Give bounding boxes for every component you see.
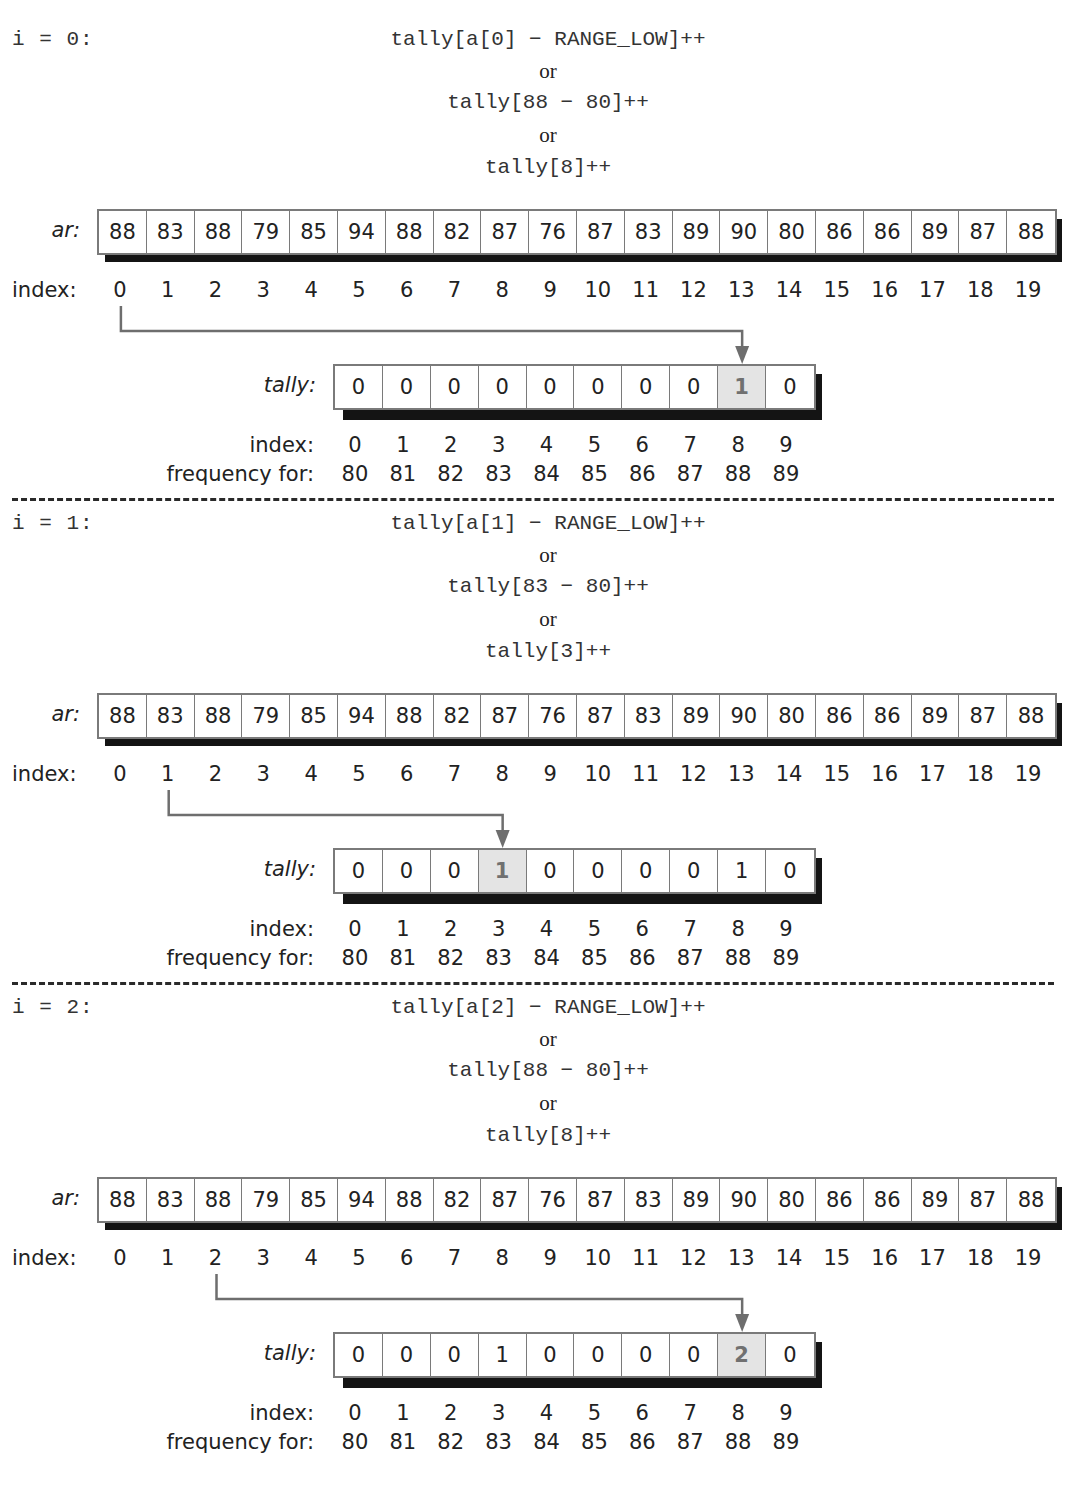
tally-index: 7 [666,433,714,457]
tally-cell: 0 [670,850,718,892]
frequency-value: 85 [570,1430,618,1454]
tally-cell: 0 [622,1334,670,1376]
frequency-value: 88 [714,1430,762,1454]
frequency-value: 84 [523,946,571,970]
frequency-value: 83 [475,462,523,486]
frequency-value: 80 [331,462,379,486]
frequency-value: 82 [427,462,475,486]
tally-cell: 0 [335,1334,383,1376]
frequency-for-label: frequency for: [100,462,314,486]
tally-index: 4 [523,433,571,457]
frequency-value: 82 [427,1430,475,1454]
frequency-value: 87 [666,462,714,486]
tally-index: 9 [762,433,810,457]
tally-cells: 0000000010 [333,364,816,410]
tally-index: 6 [618,917,666,941]
tally-index-row: 0123456789 [331,917,810,941]
tally-index: 0 [331,433,379,457]
frequency-value: 82 [427,946,475,970]
tally-index: 3 [475,1401,523,1425]
frequency-value: 86 [618,946,666,970]
tally-index: 0 [331,1401,379,1425]
tally-cell: 1 [718,850,766,892]
tally-cell: 0 [622,850,670,892]
frequency-value: 81 [379,462,427,486]
tally-cell: 0 [670,366,718,408]
tally-index: 1 [379,1401,427,1425]
frequency-value: 84 [523,462,571,486]
tally-cell: 0 [431,366,479,408]
tally-cell: 0 [335,366,383,408]
tally-index: 6 [618,433,666,457]
tally-index-row: 0123456789 [331,433,810,457]
frequency-value: 84 [523,1430,571,1454]
tally-index: 5 [570,1401,618,1425]
tally-index: 6 [618,1401,666,1425]
frequency-value: 89 [762,1430,810,1454]
tally-index: 7 [666,917,714,941]
frequency-value: 85 [570,946,618,970]
frequency-value: 88 [714,946,762,970]
tally-index: 2 [427,1401,475,1425]
frequency-value: 87 [666,1430,714,1454]
frequency-value: 86 [618,462,666,486]
frequency-for-row: 80818283848586878889 [331,462,810,486]
tally-label: tally: [200,373,316,397]
tally-cell: 0 [622,366,670,408]
tally-cell: 0 [431,850,479,892]
tally-index: 2 [427,433,475,457]
tally-cells: 0001000010 [333,848,816,894]
tally-cell: 0 [383,1334,431,1376]
frequency-value: 87 [666,946,714,970]
tally-cells: 0001000020 [333,1332,816,1378]
frequency-value: 89 [762,462,810,486]
tally-index: 3 [475,917,523,941]
frequency-value: 80 [331,946,379,970]
tally-index-label: index: [180,1401,314,1425]
tally-index: 9 [762,1401,810,1425]
iteration-step-1: i = 1: tally[a[1] − RANGE_LOW]++ or tall… [0,484,1081,968]
tally-cell: 0 [479,366,527,408]
tally-index: 0 [331,917,379,941]
tally-index: 4 [523,1401,571,1425]
tally-cell: 0 [766,850,814,892]
tally-index: 9 [762,917,810,941]
frequency-value: 83 [475,1430,523,1454]
frequency-value: 89 [762,946,810,970]
tally-cell-highlighted: 1 [479,850,527,892]
iteration-step-0: i = 0: tally[a[0] − RANGE_LOW]++ or tall… [0,0,1081,484]
frequency-value: 85 [570,462,618,486]
tally-index: 8 [714,917,762,941]
tally-index: 1 [379,433,427,457]
tally-label: tally: [200,857,316,881]
tally-index-label: index: [180,917,314,941]
tally-cell: 0 [335,850,383,892]
frequency-value: 86 [618,1430,666,1454]
tally-index: 7 [666,1401,714,1425]
tally-cell: 1 [479,1334,527,1376]
tally-cell: 0 [527,1334,575,1376]
frequency-for-row: 80818283848586878889 [331,946,810,970]
frequency-value: 81 [379,946,427,970]
tally-cell: 0 [383,850,431,892]
frequency-for-row: 80818283848586878889 [331,1430,810,1454]
tally-cell: 0 [574,1334,622,1376]
tally-cell: 0 [431,1334,479,1376]
frequency-value: 81 [379,1430,427,1454]
tally-index-label: index: [180,433,314,457]
tally-cell-highlighted: 1 [718,366,766,408]
frequency-value: 80 [331,1430,379,1454]
frequency-value: 88 [714,462,762,486]
frequency-value: 83 [475,946,523,970]
tally-cell: 0 [527,366,575,408]
tally-index: 3 [475,433,523,457]
tally-cell: 0 [574,850,622,892]
tally-index: 8 [714,433,762,457]
tally-index: 4 [523,917,571,941]
tally-cell: 0 [766,366,814,408]
tally-label: tally: [200,1341,316,1365]
tally-cell: 0 [527,850,575,892]
tally-index: 2 [427,917,475,941]
tally-cell: 0 [670,1334,718,1376]
tally-index: 8 [714,1401,762,1425]
